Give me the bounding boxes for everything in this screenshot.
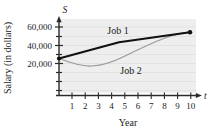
x-axis-variable-label: t <box>204 91 207 101</box>
y-tick-label-60000: 60,000 <box>27 22 52 32</box>
x-tick-label-8: 8 <box>162 101 167 111</box>
series-label-job-2: Job 2 <box>120 65 141 76</box>
y-axis-variable-label: S <box>63 5 68 15</box>
salary-comparison-chart: 60,000 40,000 20,000 1 2 3 4 5 6 7 8 9 1… <box>0 0 212 132</box>
x-axis <box>56 93 202 98</box>
x-tick-label-3: 3 <box>96 101 101 111</box>
chart-canvas: 60,000 40,000 20,000 1 2 3 4 5 6 7 8 9 1… <box>0 0 212 132</box>
x-axis-title: Year <box>119 117 138 128</box>
x-tick-label-6: 6 <box>136 101 141 111</box>
x-tick-label-9: 9 <box>175 101 180 111</box>
x-tick-label-10: 10 <box>186 101 196 111</box>
endpoint-marker <box>188 30 193 35</box>
y-tick-label-40000: 40,000 <box>27 41 52 51</box>
x-tick-label-1: 1 <box>70 101 75 111</box>
x-tick-label-2: 2 <box>83 101 88 111</box>
y-tick-label-20000: 20,000 <box>27 59 52 69</box>
series-label-job-1: Job 1 <box>107 25 128 36</box>
x-tick-label-7: 7 <box>149 101 154 111</box>
x-tick-label-5: 5 <box>123 101 128 111</box>
origin-point-marker <box>57 56 61 60</box>
x-tick-label-4: 4 <box>109 101 114 111</box>
y-axis-title: Salary (in dollars) <box>2 22 14 94</box>
